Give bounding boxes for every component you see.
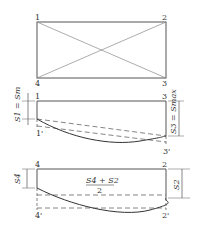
section-1-3: 1 3 1' 3' S1 = Sm S3 = Smax	[13, 86, 184, 156]
section-4-2: 4 2 4' 2' S4 + S2 2 S4 S2	[13, 160, 190, 220]
corner-label-4prime: 4'	[35, 211, 42, 220]
corner-label-3: 3	[162, 79, 167, 88]
corner-label-4: 4	[35, 160, 40, 169]
corner-label-1: 1	[35, 92, 40, 101]
corner-label-1: 1	[35, 13, 40, 22]
corner-label-3prime: 3'	[163, 147, 170, 156]
settlement-diagram: 1 2 4 3 1 3 1' 3' S1 = Sm S3 = Smax	[0, 0, 198, 228]
dim-label-s1: S1 = Sm	[13, 86, 22, 122]
dim-label-s4: S4	[13, 173, 22, 184]
corner-label-3: 3	[162, 92, 167, 101]
corner-label-2prime: 2'	[162, 211, 169, 220]
dim-label-s2: S2	[172, 179, 181, 190]
fraction-denominator: 2	[97, 186, 102, 195]
dim-label-s3: S3 = Smax	[169, 89, 178, 134]
fraction-numerator: S4 + S2	[86, 176, 119, 185]
corner-label-1prime: 1'	[36, 129, 43, 138]
corner-label-4: 4	[35, 79, 40, 88]
corner-label-2: 2	[162, 13, 167, 22]
corner-label-2: 2	[162, 160, 167, 169]
plan-rectangle: 1 2 4 3	[35, 13, 167, 88]
